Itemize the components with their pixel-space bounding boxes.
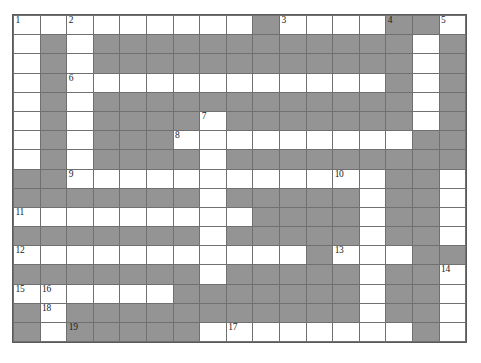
crossword-cell-open[interactable] — [359, 188, 386, 207]
crossword-cell-open[interactable] — [120, 246, 147, 265]
crossword-cell-open[interactable] — [67, 150, 94, 169]
crossword-cell-open[interactable] — [226, 246, 253, 265]
crossword-cell-open[interactable] — [173, 207, 200, 226]
crossword-cell-open[interactable] — [200, 207, 227, 226]
crossword-cell-open[interactable] — [226, 169, 253, 188]
crossword-cell-open[interactable] — [14, 150, 41, 169]
crossword-cell-open[interactable] — [359, 227, 386, 246]
crossword-cell-open[interactable] — [14, 35, 41, 54]
crossword-cell-open[interactable] — [359, 169, 386, 188]
crossword-cell-open[interactable] — [173, 73, 200, 92]
crossword-cell-open[interactable] — [386, 131, 413, 150]
crossword-cell-open[interactable] — [120, 169, 147, 188]
crossword-cell-open[interactable] — [14, 92, 41, 111]
crossword-cell-open[interactable] — [412, 111, 439, 130]
crossword-cell-open[interactable] — [279, 131, 306, 150]
crossword-grid[interactable]: 12345678910111213141516181917 — [13, 15, 466, 342]
crossword-cell-open[interactable] — [120, 73, 147, 92]
crossword-cell-open[interactable] — [200, 265, 227, 284]
crossword-cell-open[interactable] — [253, 73, 280, 92]
crossword-cell-open[interactable] — [333, 16, 360, 35]
crossword-cell-open[interactable]: 1 — [14, 16, 41, 35]
crossword-cell-open[interactable]: 14 — [439, 265, 466, 284]
crossword-cell-open[interactable] — [253, 246, 280, 265]
crossword-cell-open[interactable] — [279, 169, 306, 188]
crossword-cell-open[interactable] — [200, 169, 227, 188]
crossword-cell-open[interactable]: 15 — [14, 284, 41, 303]
crossword-cell-open[interactable]: 16 — [40, 284, 67, 303]
crossword-cell-open[interactable] — [146, 169, 173, 188]
crossword-cell-open[interactable]: 2 — [67, 16, 94, 35]
crossword-cell-open[interactable] — [200, 246, 227, 265]
crossword-cell-open[interactable] — [93, 284, 120, 303]
crossword-cell-open[interactable]: 9 — [67, 169, 94, 188]
crossword-cell-open[interactable] — [40, 246, 67, 265]
crossword-cell-open[interactable] — [67, 35, 94, 54]
crossword-cell-open[interactable] — [146, 284, 173, 303]
crossword-cell-open[interactable] — [93, 73, 120, 92]
crossword-cell-open[interactable] — [146, 207, 173, 226]
crossword-cell-open[interactable] — [386, 323, 413, 342]
crossword-cell-open[interactable] — [359, 73, 386, 92]
crossword-cell-open[interactable] — [439, 227, 466, 246]
crossword-cell-open[interactable] — [279, 246, 306, 265]
crossword-cell-open[interactable]: 10 — [333, 169, 360, 188]
crossword-cell-open[interactable] — [306, 169, 333, 188]
crossword-cell-open[interactable] — [67, 111, 94, 130]
crossword-cell-open[interactable] — [67, 92, 94, 111]
crossword-cell-open[interactable] — [279, 323, 306, 342]
crossword-cell-open[interactable] — [93, 207, 120, 226]
crossword-cell-open[interactable] — [40, 16, 67, 35]
crossword-cell-open[interactable] — [120, 284, 147, 303]
crossword-cell-open[interactable] — [173, 16, 200, 35]
crossword-cell-open[interactable] — [412, 92, 439, 111]
crossword-cell-open[interactable] — [359, 265, 386, 284]
crossword-cell-open[interactable] — [226, 16, 253, 35]
crossword-cell-open[interactable] — [412, 73, 439, 92]
crossword-cell-open[interactable] — [14, 131, 41, 150]
crossword-cell-open[interactable] — [306, 131, 333, 150]
crossword-cell-open[interactable] — [226, 131, 253, 150]
crossword-cell-open[interactable] — [439, 284, 466, 303]
crossword-cell-open[interactable] — [359, 131, 386, 150]
crossword-cell-open[interactable] — [93, 16, 120, 35]
crossword-cell-open[interactable] — [93, 246, 120, 265]
crossword-cell-open[interactable]: 17 — [226, 323, 253, 342]
crossword-cell-open[interactable] — [93, 169, 120, 188]
crossword-cell-open[interactable] — [146, 16, 173, 35]
crossword-cell-open[interactable] — [306, 16, 333, 35]
crossword-cell-open[interactable] — [200, 73, 227, 92]
crossword-cell-open[interactable] — [200, 16, 227, 35]
crossword-cell-open[interactable] — [439, 207, 466, 226]
crossword-cell-open[interactable] — [67, 284, 94, 303]
crossword-cell-open[interactable] — [333, 73, 360, 92]
crossword-cell-open[interactable] — [200, 150, 227, 169]
crossword-cell-open[interactable]: 6 — [67, 73, 94, 92]
crossword-cell-open[interactable] — [386, 246, 413, 265]
crossword-cell-open[interactable] — [200, 227, 227, 246]
crossword-cell-open[interactable] — [412, 35, 439, 54]
crossword-cell-open[interactable]: 5 — [439, 16, 466, 35]
crossword-cell-open[interactable] — [359, 284, 386, 303]
crossword-cell-open[interactable] — [412, 54, 439, 73]
crossword-cell-open[interactable] — [359, 246, 386, 265]
crossword-cell-open[interactable]: 12 — [14, 246, 41, 265]
crossword-cell-open[interactable] — [253, 131, 280, 150]
crossword-cell-open[interactable] — [253, 169, 280, 188]
crossword-cell-open[interactable] — [279, 73, 306, 92]
crossword-cell-open[interactable] — [226, 207, 253, 226]
crossword-cell-open[interactable] — [200, 323, 227, 342]
crossword-cell-open[interactable] — [439, 303, 466, 322]
crossword-cell-open[interactable] — [200, 188, 227, 207]
crossword-cell-open[interactable] — [359, 16, 386, 35]
crossword-cell-open[interactable] — [14, 111, 41, 130]
crossword-cell-open[interactable] — [40, 323, 67, 342]
crossword-cell-open[interactable] — [253, 323, 280, 342]
crossword-cell-open[interactable] — [67, 131, 94, 150]
crossword-cell-open[interactable] — [14, 54, 41, 73]
crossword-cell-open[interactable]: 18 — [40, 303, 67, 322]
crossword-cell-open[interactable]: 13 — [333, 246, 360, 265]
crossword-cell-open[interactable] — [173, 246, 200, 265]
crossword-cell-open[interactable] — [67, 54, 94, 73]
crossword-cell-open[interactable] — [200, 131, 227, 150]
